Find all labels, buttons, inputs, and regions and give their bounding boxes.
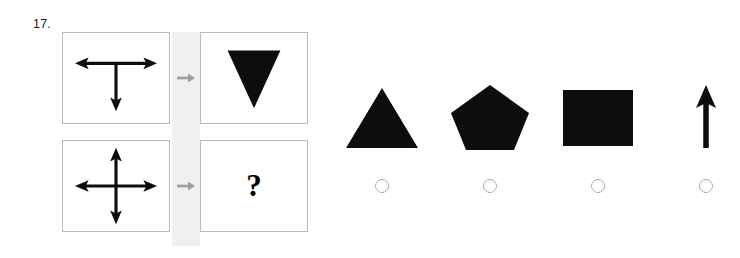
cross-arrow-figure-icon [63,141,169,231]
answer-radio-3[interactable] [591,179,605,193]
question-number: 17. [33,18,51,31]
matrix-grid: ? [62,32,312,246]
gray-right-arrow-icon [174,175,198,197]
up-triangle-shape-icon [336,82,428,154]
answer-radio-2[interactable] [483,179,497,193]
answer-options [318,82,738,212]
answer-radio-4[interactable] [699,179,713,193]
matrix-cell-row2-result: ? [200,140,308,232]
answer-radio-1[interactable] [375,179,389,193]
gray-right-arrow-icon [174,67,198,89]
question-canvas: 17. [0,0,740,258]
answer-option-4[interactable] [660,82,740,212]
answer-option-3[interactable] [552,82,644,212]
matrix-cell-row2-stimulus [62,140,170,232]
answer-option-1[interactable] [336,82,428,212]
pentagon-shape-icon [444,82,536,154]
down-triangle-shape-icon [201,33,307,123]
separator-band [172,32,200,246]
question-mark-label: ? [201,141,307,231]
answer-option-2[interactable] [444,82,536,212]
matrix-cell-row1-result [200,32,308,124]
up-arrow-shape-icon [660,82,740,154]
square-shape-icon [552,82,644,154]
t-arrow-figure-icon [63,33,169,123]
matrix-cell-row1-stimulus [62,32,170,124]
